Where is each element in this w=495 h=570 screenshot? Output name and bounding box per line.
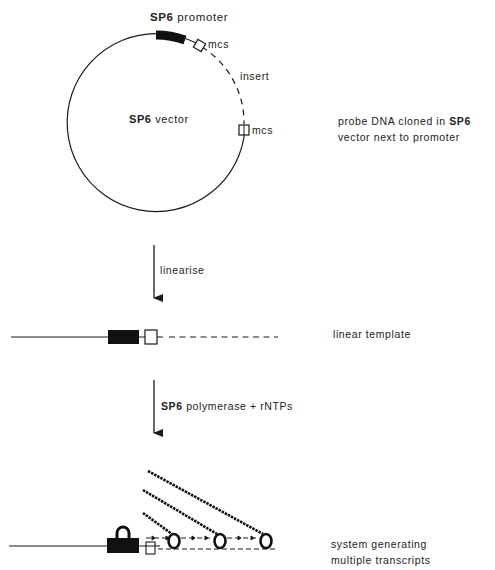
- mcs-label-right: mcs: [252, 124, 273, 136]
- polymerase-step-label: SP6 polymerase + rNTPs: [161, 400, 293, 412]
- insert-arc: [202, 47, 244, 124]
- transcription-system: [9, 471, 275, 554]
- sp6-promoter-block: [156, 35, 185, 40]
- promoter-block-linear: [108, 330, 139, 344]
- polymerase-icon-3: [261, 534, 272, 548]
- system-note: system generating multiple transcripts: [331, 536, 431, 568]
- sp6-promoter-label: SP6 promoter: [150, 11, 228, 23]
- mcs-box-top: [193, 39, 205, 51]
- linear-template: [11, 330, 278, 344]
- sp6-vector-label: SP6 vector: [129, 113, 189, 125]
- promoter-block-system: [107, 538, 139, 553]
- linearise-label: linearise: [160, 264, 205, 276]
- plasmid-note: probe DNA cloned in SP6 vector next to p…: [338, 113, 471, 145]
- polymerase-icon-2: [215, 534, 226, 548]
- polymerase-bound-icon: [117, 527, 129, 539]
- mcs-box-system: [146, 542, 155, 554]
- mcs-box-linear: [145, 330, 157, 344]
- transcript-short: [143, 513, 172, 534]
- mcs-label-top: mcs: [208, 38, 229, 50]
- transcript-medium: [143, 490, 217, 534]
- insert-label: insert: [240, 70, 269, 82]
- linear-template-label: linear template: [333, 328, 411, 340]
- polymerase-icon-1: [169, 534, 180, 548]
- sp6-transcription-diagram: [0, 0, 495, 570]
